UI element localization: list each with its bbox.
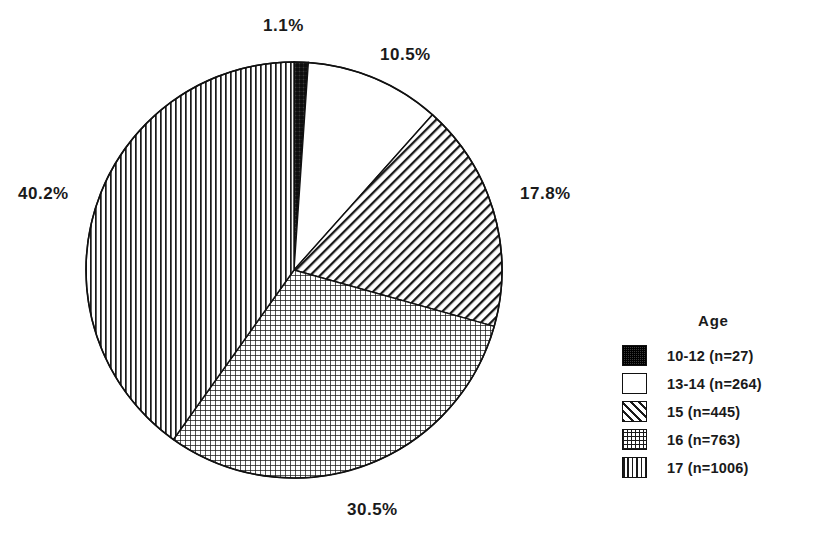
legend-item-15[interactable]: 15 (n=445) xyxy=(622,399,832,424)
legend-swatch-16 xyxy=(622,429,647,450)
pie-chart-figure: 1.1% 10.5% 17.8% 30.5% 40.2% Age 10-12 (… xyxy=(0,0,836,547)
legend-label-16: 16 (n=763) xyxy=(667,432,740,448)
pie-slices-group xyxy=(86,62,502,478)
chart-legend: Age 10-12 (n=27) 13-14 (n=264) 15 (n=445… xyxy=(622,312,832,483)
legend-swatch-13-14 xyxy=(622,373,647,394)
legend-swatch-10-12 xyxy=(622,345,647,366)
legend-item-17[interactable]: 17 (n=1006) xyxy=(622,455,832,480)
legend-label-17: 17 (n=1006) xyxy=(667,460,749,476)
slice-percent-label-13-14: 10.5% xyxy=(380,45,431,65)
legend-title: Age xyxy=(622,312,832,329)
legend-label-15: 15 (n=445) xyxy=(667,404,740,420)
legend-label-13-14: 13-14 (n=264) xyxy=(667,376,762,392)
slice-percent-label-10-12: 1.1% xyxy=(263,16,304,36)
legend-label-10-12: 10-12 (n=27) xyxy=(667,348,754,364)
slice-percent-label-15: 17.8% xyxy=(520,184,571,204)
legend-swatch-15 xyxy=(622,401,647,422)
legend-item-10-12[interactable]: 10-12 (n=27) xyxy=(622,343,832,368)
legend-swatch-17 xyxy=(622,457,647,478)
legend-item-13-14[interactable]: 13-14 (n=264) xyxy=(622,371,832,396)
slice-percent-label-17: 40.2% xyxy=(18,184,69,204)
slice-percent-label-16: 30.5% xyxy=(347,500,398,520)
legend-item-16[interactable]: 16 (n=763) xyxy=(622,427,832,452)
